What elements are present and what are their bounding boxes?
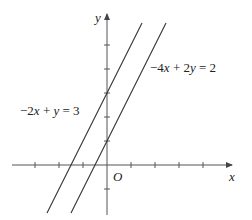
x-axis-label: x bbox=[228, 169, 235, 184]
y-axis-label: y bbox=[93, 10, 101, 25]
graph: y x O −2x + y = 3 −4x + 2y = 2 bbox=[0, 0, 252, 220]
origin-label: O bbox=[113, 169, 123, 184]
line-eq1 bbox=[47, 23, 142, 213]
line-eq2 bbox=[71, 23, 166, 213]
equation-label-1: −2x + y = 3 bbox=[20, 103, 80, 118]
equation-label-2: −4x + 2y = 2 bbox=[150, 60, 216, 75]
y-axis bbox=[104, 14, 110, 215]
x-axis bbox=[12, 162, 232, 168]
